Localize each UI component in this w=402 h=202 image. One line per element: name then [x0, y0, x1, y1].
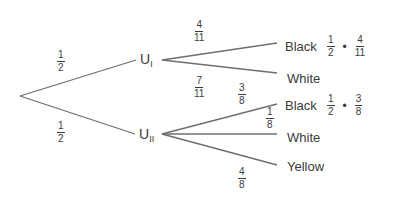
product-u1-black: 1 2 • 4 11: [327, 35, 365, 58]
edge-u2-black: [162, 104, 277, 134]
multiply-dot: •: [343, 99, 347, 113]
outcome-u1-black: Black: [285, 40, 317, 53]
product-u2-black: 1 2 • 3 8: [327, 94, 362, 117]
outcome-u2-yellow: Yellow: [287, 160, 324, 173]
prob-u2-yellow: 4 8: [238, 167, 246, 190]
product-factor-b: 3 8: [355, 94, 363, 117]
outcome-u2-black: Black: [285, 99, 317, 112]
node-urn-2: UII: [139, 128, 154, 146]
prob-u2-black: 3 8: [238, 83, 246, 106]
outcome-u2-white: White: [287, 131, 320, 144]
product-factor-a: 1 2: [327, 35, 335, 58]
edge-u1-black: [162, 43, 277, 60]
edge-u1-white: [162, 60, 277, 73]
edge-root-u2: [20, 96, 135, 134]
prob-u1-white: 7 11: [194, 76, 204, 99]
product-factor-b: 4 11: [355, 35, 365, 58]
node-urn-1: UI: [140, 53, 153, 71]
multiply-dot: •: [343, 40, 347, 54]
edge-root-u1: [20, 60, 136, 96]
product-factor-a: 1 2: [327, 94, 335, 117]
prob-root-u1: 1 2: [57, 50, 65, 73]
edge-u2-yellow: [162, 134, 277, 165]
prob-root-u2: 1 2: [57, 121, 65, 144]
outcome-u1-white: White: [287, 72, 320, 85]
prob-u2-white: 1 8: [266, 107, 274, 130]
prob-u1-black: 4 11: [194, 20, 204, 43]
